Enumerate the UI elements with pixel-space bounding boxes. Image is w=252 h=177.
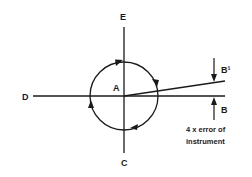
label-b: B bbox=[221, 105, 228, 115]
label-a: A bbox=[113, 83, 120, 93]
label-d: D bbox=[22, 92, 29, 102]
label-b-prime: B¹ bbox=[221, 65, 231, 75]
annotation-line-1: 4 x error of bbox=[186, 125, 226, 134]
reversal-diagram: E C D A B¹ B 4 x error of instrument bbox=[0, 0, 252, 177]
circle-arrow-top-icon bbox=[115, 60, 123, 67]
inclined-line-b-prime bbox=[124, 81, 225, 96]
label-e: E bbox=[120, 12, 126, 22]
circle-arrow-left-icon bbox=[88, 100, 94, 108]
circle-arrow-right-icon bbox=[152, 79, 159, 87]
label-c: C bbox=[121, 158, 128, 168]
arrow-down-icon bbox=[211, 74, 217, 82]
annotation-line-2: instrument bbox=[186, 137, 225, 146]
arrow-up-icon bbox=[211, 97, 217, 105]
